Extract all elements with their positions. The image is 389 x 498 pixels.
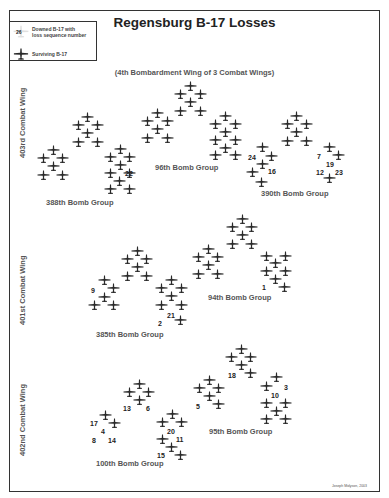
downed-b17-marker: 13 (123, 405, 131, 412)
surviving-b17-icon (155, 300, 168, 311)
surviving-b17-icon (56, 170, 69, 181)
surviving-b17-icon (211, 269, 224, 280)
downed-b17-marker: 3 (284, 384, 288, 391)
surviving-b17-icon (192, 269, 205, 280)
surviving-b17-icon (174, 315, 187, 326)
surviving-b17-icon (260, 414, 273, 425)
surviving-b17-icon (141, 133, 154, 144)
surviving-b17-icon (108, 418, 121, 429)
downed-b17-marker: 8 (92, 437, 96, 444)
surviving-b17-icon (175, 417, 188, 428)
downed-b17-marker: 23 (335, 169, 343, 176)
surviving-b17-icon (194, 106, 207, 117)
group-label: 94th Bomb Group (208, 293, 271, 302)
surviving-b17-icon (174, 106, 187, 117)
downed-b17-marker: 11 (176, 436, 183, 443)
wing-label: 403rd Combat Wing (18, 88, 27, 158)
downed-b17-marker: 24 (248, 154, 256, 161)
downed-b17-marker: 22 (125, 170, 133, 177)
surviving-b17-icon (209, 150, 222, 161)
surviving-b17-icon (245, 239, 258, 250)
surviving-b17-icon (278, 282, 291, 293)
wing-label: 401st Combat Wing (18, 255, 27, 325)
surviving-b17-icon (255, 177, 268, 188)
downed-b17-marker: 10 (271, 392, 279, 399)
group-label: 96th Bomb Group (155, 163, 218, 172)
surviving-b17-icon (279, 414, 292, 425)
surviving-b17-icon (226, 239, 239, 250)
group-label: 385th Bomb Group (96, 330, 164, 339)
downed-b17-marker: 1 (262, 284, 266, 291)
group-label: 388th Bomb Group (46, 198, 114, 207)
surviving-b17-icon (175, 300, 188, 311)
surviving-b17-icon (123, 184, 136, 195)
surviving-b17-icon (156, 417, 169, 428)
downed-b17-marker: 21 (167, 312, 175, 319)
downed-b17-marker: 20 (167, 428, 175, 435)
surviving-b17-icon (260, 381, 273, 392)
surviving-b17-icon (72, 137, 85, 148)
surviving-b17-icon (104, 184, 117, 195)
downed-b17-marker: 2 (158, 320, 162, 327)
downed-b17-marker: 4 (101, 428, 105, 435)
downed-b17-marker: 7 (317, 153, 321, 160)
surviving-b17-icon (91, 137, 104, 148)
downed-b17-marker: 18 (228, 372, 236, 379)
surviving-b17-icon (121, 271, 134, 282)
downed-b17-marker: 16 (268, 168, 276, 175)
surviving-b17-icon (244, 368, 257, 379)
surviving-b17-icon (107, 300, 120, 311)
surviving-b17-icon (133, 395, 146, 406)
surviving-b17-icon (140, 271, 153, 282)
surviving-b17-icon (300, 136, 313, 147)
downed-b17-marker: 9 (91, 287, 95, 294)
downed-b17-marker: 6 (146, 405, 150, 412)
surviving-b17-icon (229, 150, 242, 161)
wing-label: 402nd Combat Wing (18, 384, 27, 456)
downed-b17-marker: 14 (108, 437, 116, 444)
downed-b17-marker: 12 (316, 169, 324, 176)
surviving-b17-icon (174, 450, 187, 461)
downed-b17-marker: 17 (90, 420, 98, 427)
surviving-b17-icon (332, 150, 345, 161)
author-credit: Joseph Molyson, 2003 (332, 484, 367, 488)
group-label: 95th Bomb Group (209, 427, 272, 436)
surviving-b17-icon (212, 399, 225, 410)
downed-b17-marker: 19 (326, 161, 334, 168)
group-label: 100th Bomb Group (96, 459, 164, 468)
downed-b17-marker: 5 (196, 403, 200, 410)
formation-layer: 403rd Combat Wing401st Combat Wing402nd … (0, 0, 389, 498)
surviving-b17-icon (88, 300, 101, 311)
surviving-b17-icon (281, 136, 294, 147)
surviving-b17-icon (161, 133, 174, 144)
group-label: 390th Bomb Group (261, 189, 329, 198)
surviving-b17-icon (37, 170, 50, 181)
downed-b17-marker: 15 (157, 452, 165, 459)
